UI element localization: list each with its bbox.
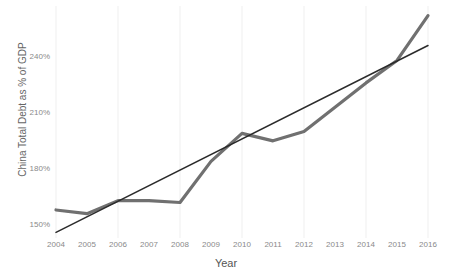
plot-svg xyxy=(0,0,452,280)
x-axis-title: Year xyxy=(0,257,452,269)
chart-container: China Total Debt as % of GDP 150%180%210… xyxy=(0,0,452,280)
